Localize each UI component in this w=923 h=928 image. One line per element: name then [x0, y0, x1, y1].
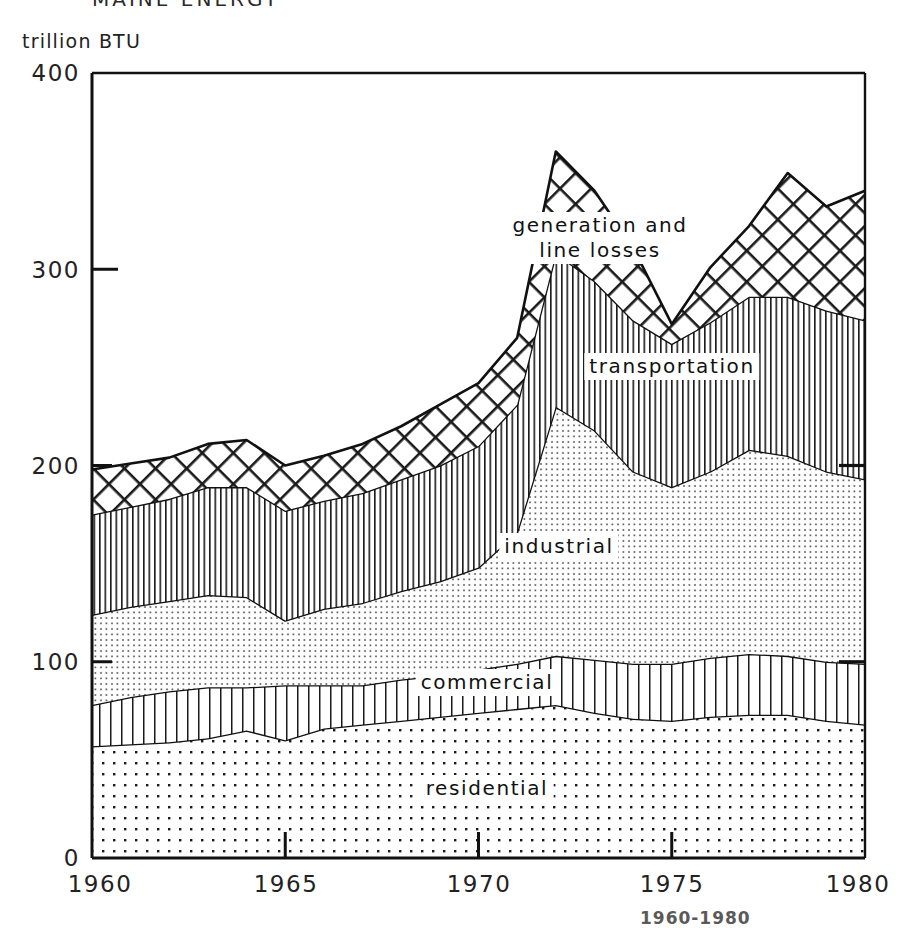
series-label-generation-line2: line losses: [512, 238, 687, 263]
series-label-industrial: industrial: [499, 533, 618, 560]
chart-footer-partial: 1960-1980: [640, 908, 751, 928]
series-label-generation-line1: generation and: [512, 213, 687, 238]
series-label-residential: residential: [421, 775, 554, 802]
series-label-transportation: transportation: [584, 353, 759, 380]
area-layers: [92, 152, 865, 859]
series-label-generation: generation and line losses: [507, 212, 692, 264]
series-label-commercial: commercial: [416, 669, 559, 696]
